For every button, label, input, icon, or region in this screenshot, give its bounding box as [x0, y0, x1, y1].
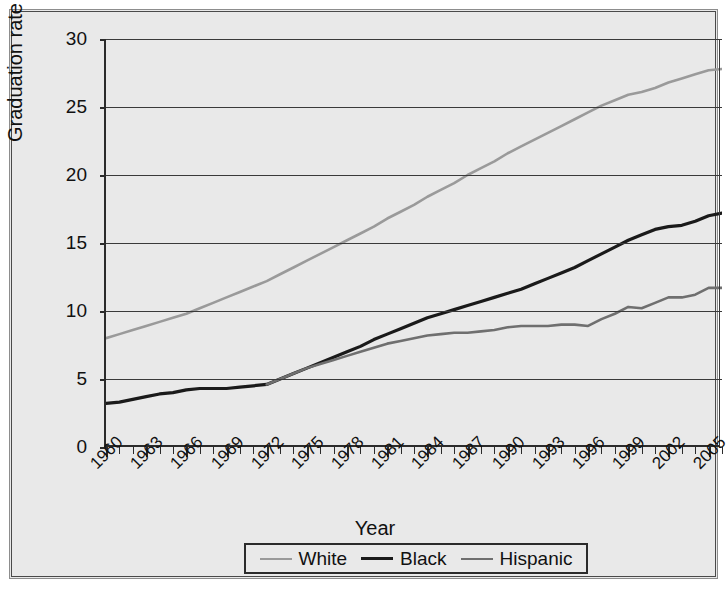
y-tick-label: 5 — [47, 369, 87, 388]
gridline — [106, 107, 722, 108]
y-tick-label: 0 — [47, 437, 87, 456]
plot-area — [104, 39, 720, 447]
legend-swatch-black — [361, 557, 393, 560]
legend-label: White — [299, 549, 348, 568]
legend-item-white[interactable]: White — [260, 549, 348, 568]
y-tick-mark — [100, 107, 106, 109]
y-tick-mark — [100, 243, 106, 245]
chart-figure: Graduation rate 051015202530 19601963196… — [0, 0, 726, 592]
y-tick-mark — [100, 175, 106, 177]
legend-label: Black — [400, 549, 446, 568]
x-axis-title: Year — [12, 517, 726, 540]
y-tick-label: 15 — [47, 233, 87, 252]
legend-item-hispanic[interactable]: Hispanic — [461, 549, 573, 568]
plot-top-rule — [106, 39, 722, 40]
y-tick-label: 30 — [47, 29, 87, 48]
caption-remnant — [28, 0, 588, 3]
gridline — [106, 311, 722, 312]
gridline — [106, 379, 722, 380]
legend-label: Hispanic — [500, 549, 573, 568]
series-line-white — [106, 69, 722, 338]
gridline — [106, 175, 722, 176]
y-tick-label: 20 — [47, 165, 87, 184]
legend-swatch-hispanic — [461, 558, 493, 560]
y-tick-mark — [100, 311, 106, 313]
legend-item-black[interactable]: Black — [361, 549, 446, 568]
gridline — [106, 243, 722, 244]
chart-legend: WhiteBlackHispanic — [244, 543, 588, 574]
y-tick-mark — [100, 39, 106, 41]
y-axis-title: Graduation rate — [4, 3, 27, 142]
legend-swatch-white — [260, 558, 292, 560]
y-tick-label: 10 — [47, 301, 87, 320]
figure-inner-border: Graduation rate 051015202530 19601963196… — [11, 11, 716, 577]
series-line-hispanic — [267, 288, 722, 385]
y-tick-label: 25 — [47, 97, 87, 116]
y-tick-mark — [100, 379, 106, 381]
